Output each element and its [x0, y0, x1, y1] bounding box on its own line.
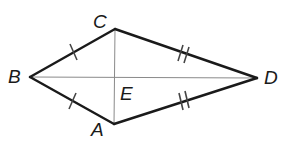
- vertex-label-e: E: [120, 84, 133, 103]
- vertex-label-b: B: [8, 67, 21, 86]
- diagonal-ca: [114, 29, 115, 124]
- vertex-label-d: D: [264, 68, 278, 87]
- diagonal-bd: [30, 77, 257, 78]
- vertex-label-c: C: [93, 12, 107, 31]
- vertex-label-a: A: [91, 120, 104, 139]
- side-bc: [30, 29, 115, 77]
- side-cd: [115, 29, 257, 78]
- kite-figure: [0, 0, 296, 143]
- side-da: [114, 78, 257, 124]
